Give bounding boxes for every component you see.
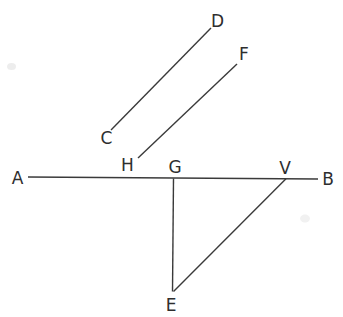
point-label-G: G <box>168 157 181 177</box>
point-label-E: E <box>166 295 177 315</box>
geometry-figure: ABCDEFGHV <box>0 0 343 317</box>
point-label-C: C <box>101 128 113 148</box>
segment-GE <box>173 179 174 292</box>
segment-VE <box>174 179 287 292</box>
point-label-D: D <box>211 11 224 31</box>
segment-HF <box>138 64 237 158</box>
scan-smudge-right <box>300 215 310 223</box>
point-label-B: B <box>322 169 334 189</box>
point-label-A: A <box>12 168 24 188</box>
point-label-V: V <box>279 158 291 178</box>
segment-CD <box>111 28 211 130</box>
point-label-F: F <box>239 44 249 64</box>
scan-smudge-left <box>7 63 16 70</box>
geometry-diagram: ABCDEFGHV <box>0 0 343 317</box>
point-label-H: H <box>121 155 134 175</box>
